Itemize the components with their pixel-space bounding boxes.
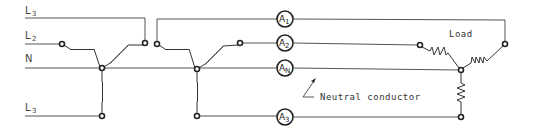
terminal-node [100, 114, 105, 119]
ammeter-a3: A 3 [277, 109, 293, 125]
load-terminal-node [459, 115, 464, 120]
ammeter-a2: A 2 [277, 35, 293, 51]
wye-circuit-diagram: L 3 L 2 N L 3 A 1 A 2 [0, 0, 534, 135]
line-label-l2: L 2 [25, 30, 36, 43]
svg-text:1: 1 [285, 18, 289, 26]
terminal-node [238, 41, 243, 46]
svg-text:N: N [285, 67, 290, 75]
wire-neutral-to-load [293, 68, 459, 70]
coil-right [199, 45, 238, 68]
line-label-l3-top: L 3 [25, 5, 36, 18]
svg-text:2: 2 [285, 42, 289, 50]
svg-text:3: 3 [285, 116, 289, 124]
load-terminal-node [418, 43, 423, 48]
line-label-l3-bottom: L 3 [25, 102, 36, 115]
terminal-node [155, 42, 160, 47]
svg-text:2: 2 [32, 35, 36, 43]
star-point-node [100, 66, 105, 71]
ammeter-an: A N [277, 60, 293, 76]
load-resistor-right [463, 46, 503, 68]
svg-text:L: L [25, 102, 31, 113]
coil-bottom [197, 71, 198, 114]
ammeter-a1: A 1 [277, 11, 293, 27]
svg-text:3: 3 [32, 107, 36, 115]
load-resistor-bottom [457, 72, 465, 115]
terminal-node [143, 41, 148, 46]
load-terminal-node [503, 42, 508, 47]
terminal-node [195, 114, 200, 119]
load-resistor-left [422, 47, 459, 68]
source-coil-right [104, 45, 143, 67]
svg-text:3: 3 [32, 10, 36, 18]
wire-a2-to-load [293, 43, 418, 45]
neutral-conductor-pointer [303, 78, 316, 97]
svg-text:L: L [25, 30, 31, 41]
svg-text:L: L [25, 5, 31, 16]
source-coil-left [64, 45, 100, 67]
coil-left [159, 45, 195, 68]
terminal-node [60, 42, 65, 47]
source-coil-bottom [102, 70, 103, 114]
wire-a1-to-load [293, 19, 505, 20]
svg-text:N: N [25, 53, 32, 64]
line-label-n: N [25, 53, 32, 64]
load-star-point-node [459, 68, 464, 73]
star-point-node [195, 67, 200, 72]
load-label: Load [449, 29, 473, 39]
neutral-conductor-label: Neutral conductor [320, 92, 421, 102]
